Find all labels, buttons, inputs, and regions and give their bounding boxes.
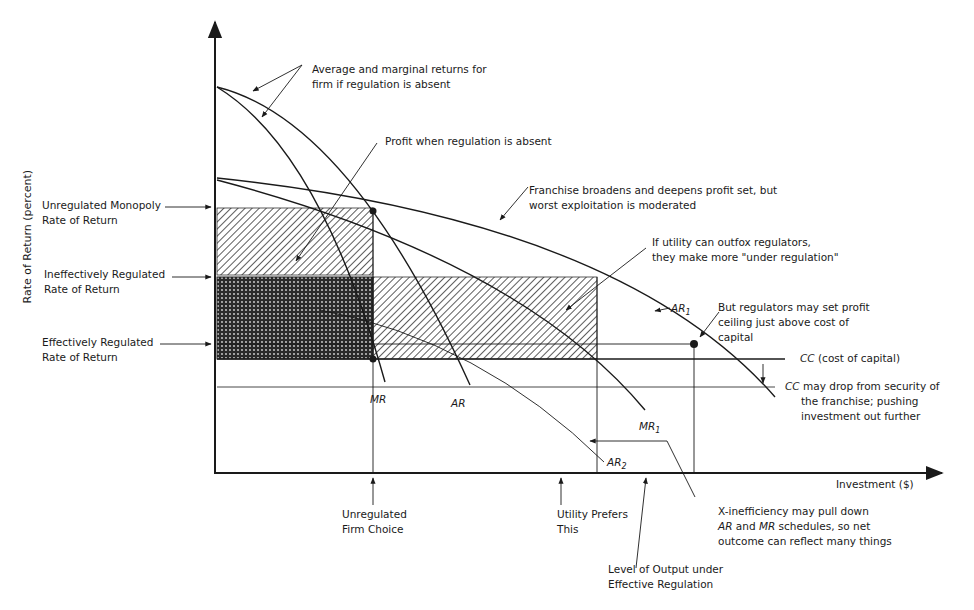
cc-drop-annotation: CC may drop from security of the franchi… [785, 379, 940, 424]
profit-absent-annotation: Profit when regulation is absent [385, 134, 552, 149]
avg-marginal-annotation: Average and marginal returns for firm if… [312, 62, 487, 92]
cc-symbol: CC [785, 380, 800, 392]
profit-regions [217, 208, 597, 359]
label-line: outcome can reflect many things [718, 534, 892, 549]
effective-output-label: Level of Output under Effective Regulati… [608, 562, 723, 592]
unregulated-rate-label: Unregulated Monopoly Rate of Return [42, 198, 161, 228]
unregulated-point [370, 208, 377, 215]
outfox-annotation: If utility can outfox regulators, they m… [652, 235, 839, 265]
ar-label: AR [451, 396, 465, 411]
ceiling-pointer [700, 312, 719, 337]
ar1-pointer [655, 308, 670, 311]
label-line: may drop from security of [803, 380, 940, 392]
mr1-label: MR1 [639, 419, 660, 438]
label-line: Rate of Return [42, 213, 161, 228]
label-line: Rate of Return [44, 282, 165, 297]
label-line: X-inefficiency may pull down [718, 504, 892, 519]
label-line: Franchise broadens and deepens profit se… [529, 183, 777, 198]
label-line: Unregulated [342, 507, 407, 522]
x-ineff-pointer [590, 441, 695, 497]
avg-marg-pointer-ar [253, 65, 302, 91]
label-line: capital [718, 330, 870, 345]
unregulated-firm-choice-label: Unregulated Firm Choice [342, 507, 407, 537]
label-line: Average and marginal returns for [312, 62, 487, 77]
label-line: This [557, 522, 628, 537]
label-line: they make more "under regulation" [652, 250, 839, 265]
ar2-label: AR2 [607, 455, 627, 474]
cc-description: (cost of capital) [818, 352, 900, 364]
label-line: Effectively Regulated [42, 335, 153, 350]
label-line: Firm Choice [342, 522, 407, 537]
y-axis-label: Rate of Return (percent) [21, 174, 34, 304]
mr-cc-point [370, 356, 377, 363]
label-line: If utility can outfox regulators, [652, 235, 839, 250]
label-line: worst exploitation is moderated [529, 198, 777, 213]
franchise-annotation: Franchise broadens and deepens profit se… [529, 183, 777, 213]
label-line: investment out further [785, 409, 940, 424]
outfox-profit-hatch [373, 277, 597, 359]
avg-marg-pointer-mr [262, 65, 302, 117]
label-line: ceiling just above cost of [718, 315, 870, 330]
franchise-pointer [500, 187, 528, 220]
label-line: But regulators may set profit [718, 300, 870, 315]
regulation-diagram: Rate of Return (percent) Unregulated Mon… [0, 0, 974, 610]
label-line: Effective Regulation [608, 577, 723, 592]
unregulated-profit-hatch [217, 208, 373, 275]
label-line: Unregulated Monopoly [42, 198, 161, 213]
ceiling-annotation: But regulators may set profit ceiling ju… [718, 300, 870, 345]
cc-label: CC (cost of capital) [800, 351, 900, 366]
label-line: the franchise; pushing [785, 394, 940, 409]
effective-marker-arrow [636, 478, 646, 568]
label-line: AR and MR schedules, so net [718, 519, 892, 534]
effective-rate-label: Effectively Regulated Rate of Return [42, 335, 153, 365]
franchise-profit-dots [217, 277, 373, 359]
label-line: Ineffectively Regulated [44, 267, 165, 282]
x-inefficiency-annotation: X-inefficiency may pull down AR and MR s… [718, 504, 892, 549]
mr-label: MR [370, 392, 386, 407]
ar1-label: AR1 [671, 301, 691, 320]
label-line: Level of Output under [608, 562, 723, 577]
cc-symbol: CC [800, 352, 815, 364]
label-line: firm if regulation is absent [312, 77, 487, 92]
label-line: Utility Prefers [557, 507, 628, 522]
ceiling-point [690, 340, 698, 348]
utility-prefers-label: Utility Prefers This [557, 507, 628, 537]
ineffective-rate-label: Ineffectively Regulated Rate of Return [44, 267, 165, 297]
x-axis-label: Investment ($) [836, 477, 914, 492]
label-line: Rate of Return [42, 350, 153, 365]
